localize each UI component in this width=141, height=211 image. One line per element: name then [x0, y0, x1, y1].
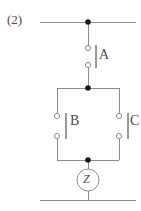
switch-a-upper-contact — [85, 45, 90, 50]
node-parallel-bottom — [85, 157, 91, 163]
circuit-diagram-screenshot: (2) — [0, 0, 141, 211]
switch-b-lower-contact — [54, 133, 59, 138]
switch-a-lower-contact — [85, 62, 90, 67]
switch-b-label: B — [70, 114, 79, 128]
switch-c-lower-contact — [116, 133, 121, 138]
switch-a-label: A — [99, 48, 109, 62]
node-top-supply — [85, 19, 91, 25]
switch-c-label: C — [130, 114, 139, 128]
element-z-label: Z — [83, 173, 90, 185]
switch-b-upper-contact — [54, 113, 59, 118]
switch-c-upper-contact — [116, 113, 121, 118]
node-parallel-top — [85, 85, 91, 91]
circuit-schematic — [0, 0, 141, 211]
